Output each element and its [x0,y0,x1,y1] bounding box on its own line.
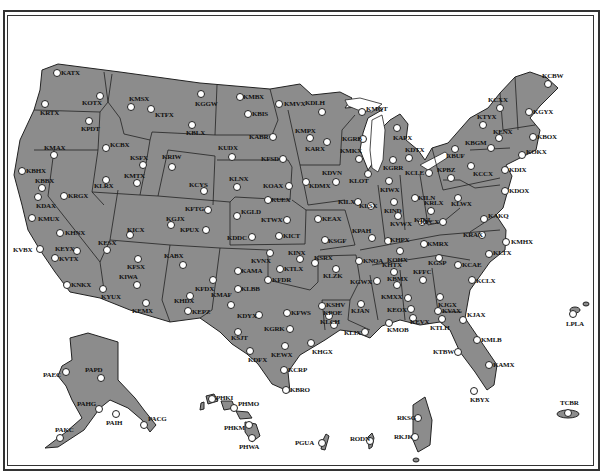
radar-site-marker-icon[interactable] [307,339,315,347]
radar-site-marker-icon[interactable] [50,151,58,159]
radar-site-marker-icon[interactable] [404,294,412,302]
radar-site-marker-icon[interactable] [569,310,577,318]
radar-site-marker-icon[interactable] [355,257,363,265]
radar-site-marker-icon[interactable] [279,155,287,163]
radar-site-marker-icon[interactable] [38,184,46,192]
radar-site-marker-icon[interactable] [502,238,510,246]
radar-site-marker-icon[interactable] [283,216,291,224]
radar-site-marker-icon[interactable] [361,328,369,336]
radar-site-marker-icon[interactable] [228,153,236,161]
radar-site-marker-icon[interactable] [266,249,274,257]
radar-site-marker-icon[interactable] [18,167,26,175]
radar-site-marker-icon[interactable] [496,104,504,112]
radar-site-marker-icon[interactable] [209,276,217,284]
radar-site-marker-icon[interactable] [276,265,284,273]
radar-site-marker-icon[interactable] [134,255,142,263]
radar-site-marker-icon[interactable] [280,366,288,374]
radar-site-marker-icon[interactable] [53,69,61,77]
radar-site-marker-icon[interactable] [227,301,235,309]
radar-site-marker-icon[interactable] [179,261,187,269]
radar-site-marker-icon[interactable] [188,121,196,129]
radar-site-marker-icon[interactable] [318,302,326,310]
radar-site-marker-icon[interactable] [36,245,44,253]
radar-site-marker-icon[interactable] [473,336,481,344]
radar-site-marker-icon[interactable] [202,226,210,234]
radar-site-marker-icon[interactable] [480,215,488,223]
radar-site-marker-icon[interactable] [544,80,552,88]
radar-site-marker-icon[interactable] [368,234,376,242]
radar-site-marker-icon[interactable] [283,309,291,317]
radar-site-marker-icon[interactable] [282,386,290,394]
radar-site-marker-icon[interactable] [332,178,340,186]
radar-site-marker-icon[interactable] [459,316,467,324]
radar-site-marker-icon[interactable] [285,182,293,190]
radar-site-marker-icon[interactable] [393,124,401,132]
radar-site-marker-icon[interactable] [358,108,366,116]
radar-site-marker-icon[interactable] [103,246,111,254]
radar-site-marker-icon[interactable] [501,166,509,174]
radar-site-marker-icon[interactable] [41,100,49,108]
radar-site-marker-icon[interactable] [434,307,442,315]
radar-site-marker-icon[interactable] [485,361,493,369]
radar-site-marker-icon[interactable] [204,206,212,214]
radar-site-marker-icon[interactable] [168,163,176,171]
radar-site-marker-icon[interactable] [246,347,254,355]
radar-site-marker-icon[interactable] [99,285,107,293]
radar-site-marker-icon[interactable] [355,155,363,163]
radar-site-marker-icon[interactable] [425,169,433,177]
radar-site-marker-icon[interactable] [470,387,478,395]
radar-site-marker-icon[interactable] [127,103,135,111]
radar-site-marker-icon[interactable] [407,305,415,313]
radar-site-marker-icon[interactable] [396,247,404,255]
radar-site-marker-icon[interactable] [140,421,148,429]
radar-site-marker-icon[interactable] [394,212,402,220]
radar-site-marker-icon[interactable] [147,105,155,113]
radar-site-marker-icon[interactable] [269,133,277,141]
radar-site-marker-icon[interactable] [275,232,283,240]
radar-site-marker-icon[interactable] [60,192,68,200]
radar-site-marker-icon[interactable] [197,90,205,98]
radar-site-marker-icon[interactable] [389,156,397,164]
radar-site-marker-icon[interactable] [63,281,71,289]
radar-site-marker-icon[interactable] [264,276,272,284]
radar-site-marker-icon[interactable] [314,215,322,223]
radar-site-marker-icon[interactable] [564,409,572,417]
radar-site-marker-icon[interactable] [468,276,476,284]
radar-site-marker-icon[interactable] [467,162,475,170]
radar-site-marker-icon[interactable] [56,434,64,442]
radar-site-marker-icon[interactable] [95,405,103,413]
radar-site-marker-icon[interactable] [245,421,253,429]
radar-site-marker-icon[interactable] [385,177,393,185]
radar-site-marker-icon[interactable] [248,434,256,442]
radar-site-marker-icon[interactable] [51,254,59,262]
radar-site-marker-icon[interactable] [436,293,444,301]
radar-site-marker-icon[interactable] [485,250,493,258]
radar-site-marker-icon[interactable] [133,179,141,187]
radar-site-marker-icon[interactable] [85,117,93,125]
radar-site-marker-icon[interactable] [318,108,326,116]
radar-site-marker-icon[interactable] [281,342,289,350]
radar-site-marker-icon[interactable] [102,144,110,152]
radar-site-marker-icon[interactable] [97,374,105,382]
radar-site-marker-icon[interactable] [487,144,495,152]
radar-site-marker-icon[interactable] [405,154,413,162]
radar-site-marker-icon[interactable] [34,193,42,201]
radar-site-marker-icon[interactable] [525,108,533,116]
radar-site-marker-icon[interactable] [501,187,509,195]
radar-site-marker-icon[interactable] [454,348,462,356]
radar-site-marker-icon[interactable] [439,218,447,226]
radar-site-marker-icon[interactable] [306,134,314,142]
radar-site-marker-icon[interactable] [529,133,537,141]
radar-site-marker-icon[interactable] [244,110,252,118]
radar-site-marker-icon[interactable] [248,233,256,241]
radar-site-marker-icon[interactable] [373,277,381,285]
radar-site-marker-icon[interactable] [419,276,427,284]
radar-site-marker-icon[interactable] [56,229,64,237]
radar-site-marker-icon[interactable] [318,439,326,447]
radar-site-marker-icon[interactable] [208,395,216,403]
radar-site-marker-icon[interactable] [518,151,526,159]
radar-site-marker-icon[interactable] [139,161,147,169]
radar-site-marker-icon[interactable] [479,121,487,129]
radar-site-marker-icon[interactable] [275,100,283,108]
radar-site-marker-icon[interactable] [133,281,141,289]
